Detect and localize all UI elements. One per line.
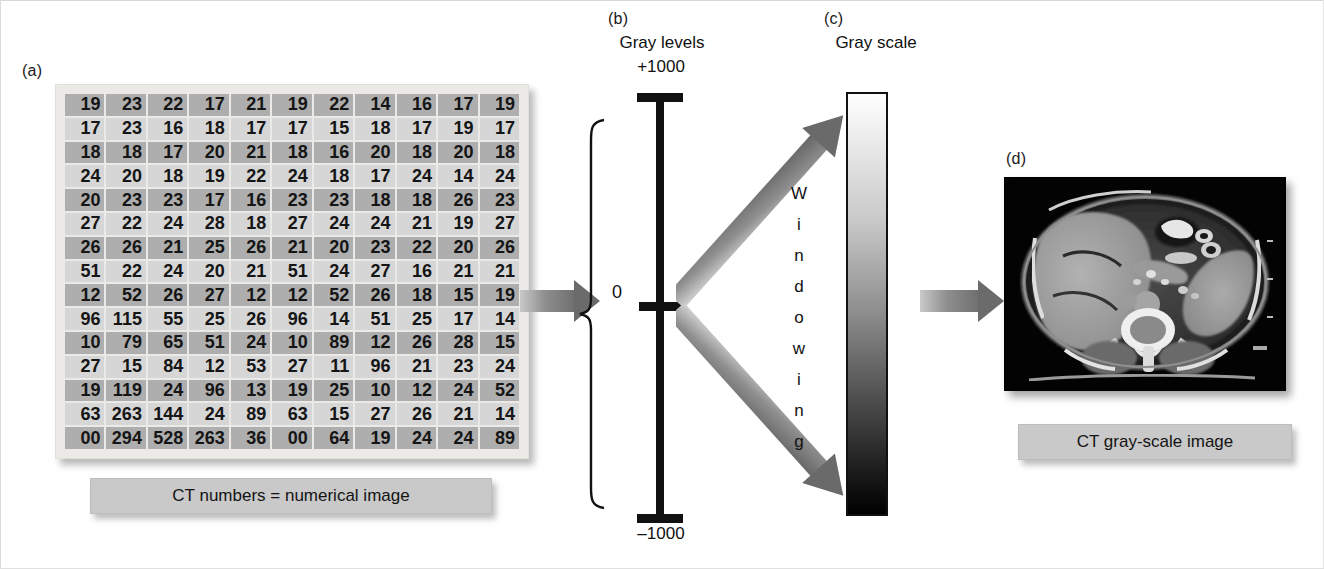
matrix-cell: 24 xyxy=(314,213,353,235)
matrix-cell: 19 xyxy=(189,165,228,187)
gray-levels-title: Gray levels xyxy=(592,33,732,53)
matrix-cell: 26 xyxy=(65,237,104,259)
matrix-cell: 528 xyxy=(148,427,187,449)
matrix-cell: 24 xyxy=(148,380,187,402)
matrix-cell: 22 xyxy=(231,165,270,187)
matrix-cell: 17 xyxy=(189,189,228,211)
matrix-cell: 12 xyxy=(397,380,436,402)
matrix-cell: 96 xyxy=(272,308,311,330)
matrix-cell: 27 xyxy=(355,403,394,425)
matrix-cell: 12 xyxy=(272,284,311,306)
matrix-cell: 19 xyxy=(480,284,519,306)
matrix-cell: 17 xyxy=(272,118,311,140)
matrix-cell: 16 xyxy=(148,118,187,140)
page-frame-left xyxy=(0,0,1,569)
arrow-scale-to-image xyxy=(920,280,1006,322)
matrix-cell: 15 xyxy=(106,356,145,378)
matrix-cell: 18 xyxy=(272,142,311,164)
matrix-cell: 27 xyxy=(480,213,519,235)
arrow-windowing-upper xyxy=(676,96,856,311)
matrix-cell: 17 xyxy=(148,142,187,164)
ct-number-matrix: 1923221721192214161719172316181717151817… xyxy=(64,93,520,450)
matrix-cell: 55 xyxy=(148,308,187,330)
matrix-cell: 22 xyxy=(314,94,353,116)
matrix-cell: 24 xyxy=(272,165,311,187)
matrix-cell: 23 xyxy=(106,118,145,140)
matrix-cell: 20 xyxy=(189,142,228,164)
caption-ct-gray-scale-image: CT gray-scale image xyxy=(1018,424,1292,460)
matrix-cell: 52 xyxy=(480,380,519,402)
matrix-cell: 24 xyxy=(438,380,477,402)
matrix-cell: 263 xyxy=(106,403,145,425)
matrix-cell: 12 xyxy=(231,284,270,306)
matrix-cell: 21 xyxy=(397,356,436,378)
matrix-cell: 18 xyxy=(355,189,394,211)
matrix-cell: 14 xyxy=(480,403,519,425)
matrix-cell: 12 xyxy=(355,332,394,354)
matrix-cell: 11 xyxy=(314,356,353,378)
matrix-cell: 16 xyxy=(231,189,270,211)
matrix-cell: 18 xyxy=(106,142,145,164)
matrix-cell: 14 xyxy=(355,94,394,116)
matrix-cell: 16 xyxy=(397,261,436,283)
matrix-cell: 14 xyxy=(314,308,353,330)
matrix-cell: 17 xyxy=(397,118,436,140)
windowing-letter: i xyxy=(797,364,801,395)
matrix-cell: 25 xyxy=(314,380,353,402)
matrix-cell: 18 xyxy=(397,284,436,306)
matrix-cell: 20 xyxy=(65,189,104,211)
matrix-cell: 36 xyxy=(231,427,270,449)
matrix-cell: 19 xyxy=(355,427,394,449)
matrix-cell: 14 xyxy=(480,308,519,330)
matrix-cell: 144 xyxy=(148,403,187,425)
matrix-cell: 24 xyxy=(355,213,394,235)
matrix-cell: 25 xyxy=(397,308,436,330)
matrix-cell: 27 xyxy=(272,213,311,235)
matrix-cell: 28 xyxy=(438,332,477,354)
windowing-letter: W xyxy=(791,178,807,209)
matrix-cell: 13 xyxy=(231,380,270,402)
matrix-cell: 18 xyxy=(397,142,436,164)
matrix-cell: 23 xyxy=(355,237,394,259)
matrix-cell: 263 xyxy=(189,427,228,449)
matrix-cell: 24 xyxy=(148,261,187,283)
matrix-cell: 17 xyxy=(480,118,519,140)
matrix-cell: 96 xyxy=(65,308,104,330)
matrix-cell: 18 xyxy=(189,118,228,140)
matrix-cell: 25 xyxy=(189,237,228,259)
windowing-letter: n xyxy=(794,395,803,426)
arrow-windowing-lower xyxy=(676,300,856,515)
matrix-cell: 12 xyxy=(189,356,228,378)
matrix-cell: 12 xyxy=(65,284,104,306)
matrix-cell: 27 xyxy=(189,284,228,306)
matrix-cell: 14 xyxy=(438,165,477,187)
matrix-cell: 10 xyxy=(65,332,104,354)
matrix-cell: 20 xyxy=(355,142,394,164)
matrix-row: 2715841253271196212324 xyxy=(64,355,520,379)
matrix-cell: 17 xyxy=(65,118,104,140)
matrix-cell: 20 xyxy=(189,261,228,283)
windowing-letter: w xyxy=(793,333,805,364)
matrix-cell: 21 xyxy=(148,237,187,259)
matrix-cell: 24 xyxy=(397,427,436,449)
matrix-cell: 22 xyxy=(397,237,436,259)
windowing-letter: i xyxy=(797,209,801,240)
figure-canvas: (a) 192322172119221416171917231618171715… xyxy=(0,0,1324,569)
matrix-row: 0029452826336006419242489 xyxy=(64,426,520,450)
panel-label-d: (d) xyxy=(1006,150,1026,168)
matrix-cell: 10 xyxy=(272,332,311,354)
matrix-cell: 26 xyxy=(480,237,519,259)
matrix-cell: 27 xyxy=(272,356,311,378)
matrix-cell: 10 xyxy=(355,380,394,402)
matrix-cell: 26 xyxy=(148,284,187,306)
matrix-cell: 27 xyxy=(355,261,394,283)
matrix-cell: 24 xyxy=(148,213,187,235)
matrix-row: 1818172021181620182018 xyxy=(64,141,520,165)
matrix-cell: 53 xyxy=(231,356,270,378)
matrix-cell: 20 xyxy=(106,165,145,187)
matrix-cell: 18 xyxy=(314,165,353,187)
matrix-cell: 23 xyxy=(314,189,353,211)
matrix-row: 1923221721192214161719 xyxy=(64,93,520,117)
ct-slice-graphic xyxy=(1005,178,1285,390)
matrix-cell: 15 xyxy=(314,403,353,425)
